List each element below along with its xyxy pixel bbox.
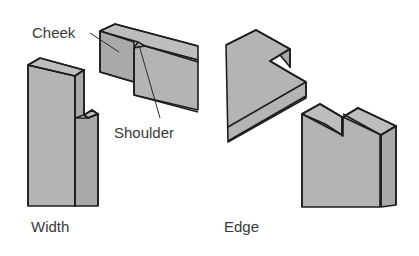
width-label: Width — [31, 218, 69, 235]
edge-label: Edge — [224, 218, 259, 235]
joinery-diagram: Cheek Shoulder Width Edge — [0, 0, 419, 256]
cheek-label: Cheek — [32, 24, 76, 41]
shoulder-label: Shoulder — [114, 124, 174, 141]
edge-upright-board — [302, 104, 396, 207]
edge-notched-board — [226, 30, 306, 142]
width-upright-board — [28, 58, 98, 206]
cheek-shoulder-board — [100, 24, 198, 112]
